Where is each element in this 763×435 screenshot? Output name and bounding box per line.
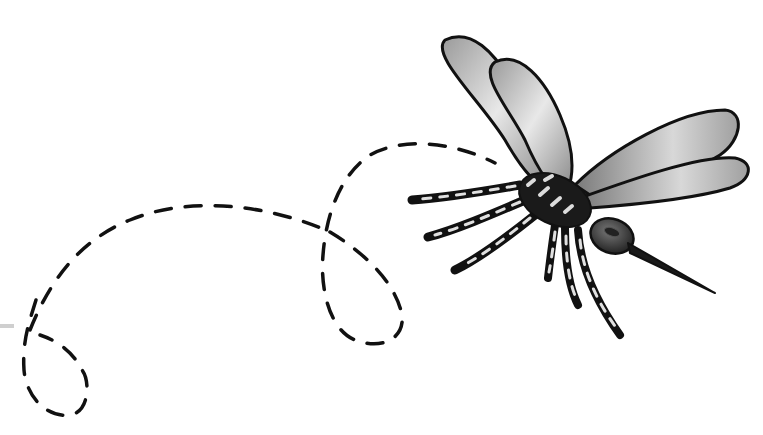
mosquito bbox=[412, 37, 748, 335]
mosquito-illustration: Grayscale illustration of a flying mosqu… bbox=[0, 0, 763, 435]
flight-path bbox=[24, 144, 495, 415]
